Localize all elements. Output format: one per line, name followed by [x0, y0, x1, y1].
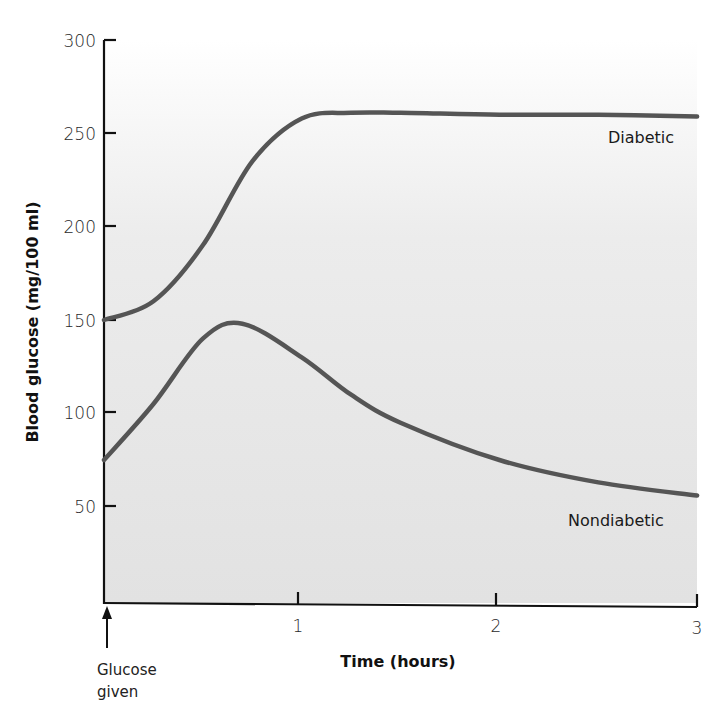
y-tick-100: 100: [64, 403, 96, 423]
glucose-tolerance-chart: 300 250 200 150 100 50 1 2 3 Blood gluco…: [0, 0, 717, 724]
glucose-given-label-line2: given: [97, 683, 138, 701]
x-tick-1: 1: [293, 616, 304, 636]
nondiabetic-label: Nondiabetic: [568, 511, 664, 530]
y-tick-300: 300: [64, 31, 96, 51]
y-tick-200: 200: [64, 217, 96, 237]
y-axis-title: Blood glucose (mg/100 ml): [23, 201, 42, 442]
diabetic-label: Diabetic: [608, 128, 674, 147]
x-tick-3: 3: [692, 618, 703, 638]
x-axis-title: Time (hours): [340, 652, 455, 671]
y-tick-250: 250: [64, 124, 96, 144]
glucose-given-label-line1: Glucose: [97, 661, 157, 679]
y-tick-50: 50: [74, 497, 96, 517]
y-tick-labels: 300 250 200 150 100 50: [64, 31, 96, 517]
y-tick-150: 150: [64, 311, 96, 331]
x-tick-labels: 1 2 3: [293, 616, 703, 638]
x-tick-2: 2: [491, 616, 502, 636]
glucose-given-arrow-icon: [102, 606, 112, 648]
